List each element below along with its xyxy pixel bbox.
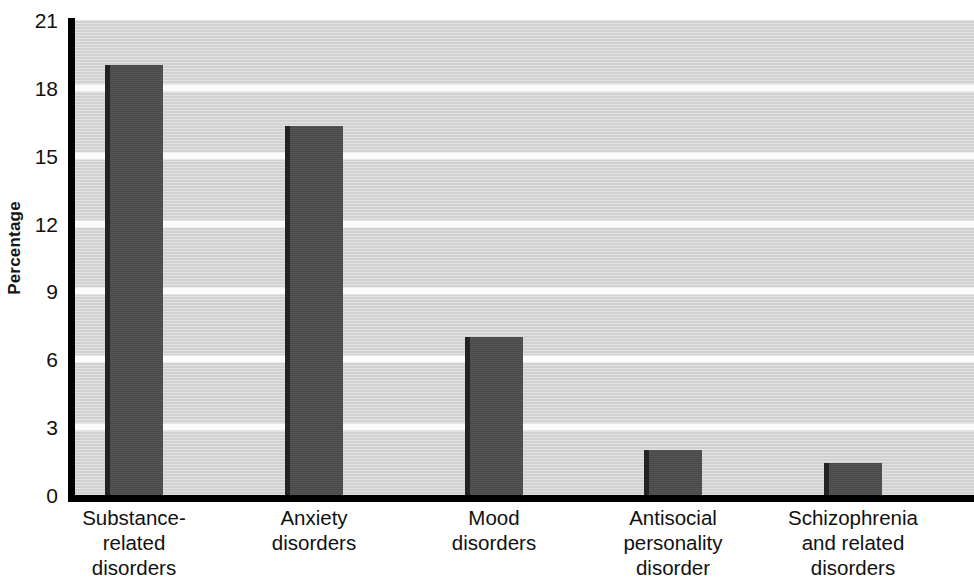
gridline: [75, 424, 974, 431]
x-axis-label-line: disorders: [404, 530, 584, 555]
y-axis-title-text: Percentage: [5, 201, 25, 295]
y-axis-tick-label: 0: [46, 485, 58, 506]
gridline: [75, 84, 974, 91]
x-axis-label-line: Mood: [404, 505, 584, 530]
bar: [824, 463, 882, 495]
x-axis-label-line: disorders: [763, 555, 943, 580]
y-axis-tick-label: 21: [35, 10, 58, 31]
gridline: [75, 220, 974, 227]
y-axis-line: [68, 18, 75, 502]
gridline: [75, 356, 974, 363]
bar: [465, 337, 523, 495]
x-axis-label-line: related: [44, 530, 224, 555]
x-axis-label-line: and related: [763, 530, 943, 555]
y-axis-tick-label: 6: [46, 349, 58, 370]
bar: [644, 450, 702, 495]
x-axis-category-label: Antisocialpersonalitydisorder: [583, 505, 763, 580]
x-axis-category-label: Schizophreniaand relateddisorders: [763, 505, 943, 580]
y-axis-tick-labels: 211815129630: [26, 0, 66, 515]
plot-area: [75, 20, 974, 495]
x-axis-label-line: Schizophrenia: [763, 505, 943, 530]
bar: [285, 126, 343, 495]
y-axis-tick-label: 9: [46, 281, 58, 302]
y-axis-tick-label: 3: [46, 417, 58, 438]
bar: [105, 65, 163, 495]
x-axis-category-labels: Substance-relateddisordersAnxietydisorde…: [75, 505, 974, 582]
y-axis-tick-label: 12: [35, 213, 58, 234]
x-axis-label-line: disorders: [44, 555, 224, 580]
x-axis-label-line: personality: [583, 530, 763, 555]
x-axis-label-line: disorder: [583, 555, 763, 580]
bar-chart: Percentage 211815129630 Substance-relate…: [0, 0, 974, 582]
x-axis-category-label: Anxietydisorders: [224, 505, 404, 555]
x-axis-line: [68, 495, 974, 502]
x-axis-label-line: Anxiety: [224, 505, 404, 530]
x-axis-category-label: Substance-relateddisorders: [44, 505, 224, 580]
x-axis-category-label: Mooddisorders: [404, 505, 584, 555]
x-axis-label-line: Antisocial: [583, 505, 763, 530]
gridline: [75, 152, 974, 159]
x-axis-label-line: disorders: [224, 530, 404, 555]
y-axis-tick-label: 18: [35, 77, 58, 98]
x-axis-label-line: Substance-: [44, 505, 224, 530]
y-axis-tick-label: 15: [35, 145, 58, 166]
gridline: [75, 288, 974, 295]
